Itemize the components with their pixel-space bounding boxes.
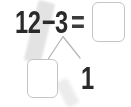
minus-operator: − [42, 6, 55, 38]
result-answer-value [93, 3, 124, 41]
minuend-number: 12 [15, 6, 41, 38]
part1-answer-box[interactable] [27, 59, 58, 98]
result-answer-box[interactable] [92, 2, 125, 42]
part1-answer-value [28, 60, 57, 97]
number-bond-worksheet: 12 − 3 = 1 [0, 0, 131, 107]
equals-sign: = [71, 6, 84, 38]
subtrahend-number: 3 [55, 6, 68, 38]
part2-number: 1 [81, 62, 94, 94]
